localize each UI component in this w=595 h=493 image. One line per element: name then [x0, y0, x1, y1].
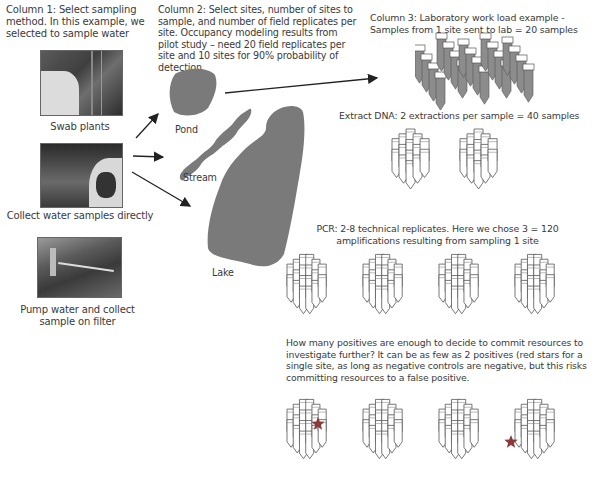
tube-icon — [394, 275, 402, 303]
positive-detection-tube-clusters — [285, 393, 595, 483]
extraction-tube-clusters — [390, 125, 570, 215]
sample-tube-array — [415, 30, 565, 110]
site-label-pond: Pond — [175, 124, 198, 136]
pond-shape — [170, 69, 217, 116]
extract-dna-label: Extract DNA: 2 extractions per sample = … — [339, 110, 595, 122]
tube-icon — [470, 275, 478, 303]
tube-icon — [470, 420, 478, 448]
sample-tube-icon — [523, 64, 534, 102]
lake-shape — [208, 106, 305, 266]
sample-tube-icon — [435, 72, 446, 110]
arrow-to-stream — [133, 156, 163, 157]
arrow-to-pond — [136, 114, 158, 138]
tube-icon — [318, 275, 326, 303]
positives-question: How many positives are enough to decide … — [286, 337, 591, 383]
tube-icon — [488, 149, 497, 177]
pcr-label: PCR: 2-8 technical replicates. Here we c… — [305, 223, 570, 246]
tube-icon — [394, 420, 402, 448]
site-label-lake: Lake — [212, 267, 234, 279]
tube-icon — [546, 275, 554, 303]
arrow-to-lab — [225, 78, 377, 93]
site-label-stream: Stream — [183, 172, 217, 184]
tube-icon — [420, 149, 429, 177]
pcr-tube-clusters — [285, 248, 595, 336]
tube-icon — [546, 420, 554, 448]
